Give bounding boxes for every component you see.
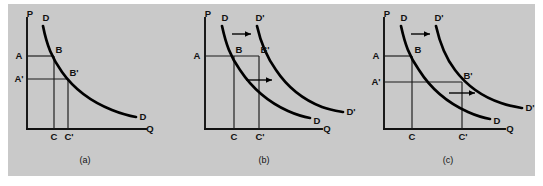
panel-a-tick-A: A — [16, 50, 23, 61]
panel-b-tick-C: C — [231, 131, 238, 142]
panel-c-point-label-Bprime: B' — [463, 70, 472, 81]
panel-c-upper-shift-arrow — [411, 31, 430, 37]
panel-c-demand-curve-D — [401, 26, 490, 119]
panel-c-tick-A: A — [373, 50, 380, 61]
panel-a-label-Q: Q — [146, 123, 153, 134]
panel-b-demand-curve-D — [222, 26, 310, 118]
panel-c-curve-end-label-Dprime: D' — [525, 102, 534, 113]
panel-c-point-label-B: B — [415, 44, 422, 55]
figure-svg-canvas: P Q D D A A' C C' B B' (a) P Q D D D' — [0, 0, 543, 186]
panel-a-tick-C: C — [51, 131, 58, 142]
demand-curve-figure: P Q D D A A' C C' B B' (a) P Q D D D' — [0, 0, 543, 186]
panel-a-tick-Cprime: C' — [64, 131, 73, 142]
panel-b-curve-start-label-Dprime: D' — [255, 12, 264, 23]
panel-c-label-P: P — [384, 8, 391, 19]
panel-a-point-label-Bprime: B' — [69, 67, 78, 78]
panel-c-curve-start-label-Dprime: D' — [434, 12, 443, 23]
panel-b-curve-end-label-Dprime: D' — [346, 106, 355, 117]
panel-b: P Q D D D' D' A C C' B B' (b) — [194, 8, 356, 165]
panel-a-label-P: P — [27, 8, 34, 19]
panel-b-curve-start-label-D: D — [222, 12, 229, 23]
panel-b-curve-end-label-D: D — [314, 115, 321, 126]
panel-a-curve-end-label-D: D — [140, 111, 147, 122]
panel-c-label-Q: Q — [506, 123, 513, 134]
panel-b-caption: (b) — [259, 155, 270, 165]
panel-c-tick-Cprime: C' — [458, 131, 467, 142]
panel-c: P Q D D D' D' A A' C C' B B' (c) — [371, 8, 534, 165]
panel-a-caption: (a) — [80, 155, 91, 165]
panel-a: P Q D D A A' C C' B B' (a) — [14, 8, 153, 165]
panel-c-tick-C: C — [409, 131, 416, 142]
panel-a-point-label-B: B — [56, 44, 63, 55]
panel-b-point-label-B: B — [236, 44, 243, 55]
panel-b-upper-shift-arrow — [232, 31, 251, 37]
panel-c-curve-end-label-D: D — [494, 115, 501, 126]
panel-c-curve-start-label-D: D — [401, 12, 408, 23]
panel-a-tick-Aprime: A' — [14, 73, 23, 84]
panel-a-curve-start-label-D: D — [43, 12, 50, 23]
panel-c-demand-curve-Dprime — [436, 26, 522, 108]
panel-c-tick-Aprime: A' — [371, 76, 380, 87]
panel-b-tick-A: A — [194, 50, 201, 61]
panel-b-label-Q: Q — [323, 123, 330, 134]
panel-b-tick-Cprime: C' — [255, 131, 264, 142]
panel-a-demand-curve-D — [43, 26, 136, 117]
panel-b-label-P: P — [205, 8, 212, 19]
panel-b-demand-curve-Dprime — [257, 26, 343, 112]
panel-b-point-label-Bprime: B' — [260, 44, 269, 55]
panel-c-caption: (c) — [443, 155, 454, 165]
